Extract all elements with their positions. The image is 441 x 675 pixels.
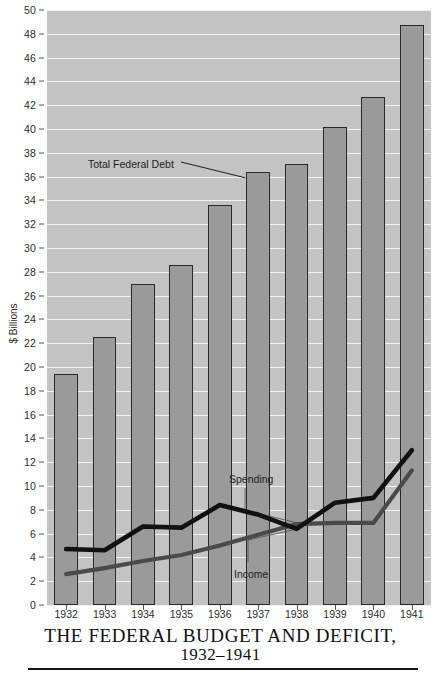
x-tick-mark [105, 605, 106, 610]
y-tick-label: 50 [24, 4, 36, 16]
spending-line [66, 450, 412, 550]
y-tick-mark [39, 10, 44, 11]
y-tick-mark [39, 295, 44, 296]
y-tick-mark [39, 176, 44, 177]
line-series-overlay [47, 10, 431, 605]
y-tick-label: 16 [24, 409, 36, 421]
y-tick-mark [39, 533, 44, 534]
plot-area [47, 10, 431, 605]
bottom-divider [28, 668, 418, 670]
chart-title-line2: 1932–1941 [0, 646, 441, 664]
y-tick-label: 44 [24, 75, 36, 87]
y-tick-label: 24 [24, 313, 36, 325]
y-tick-label: 2 [30, 575, 36, 587]
x-tick-mark [143, 605, 144, 610]
y-tick-mark [39, 81, 44, 82]
y-tick-mark [39, 367, 44, 368]
y-tick-label: 14 [24, 432, 36, 444]
annotation-spending: Spending [229, 473, 273, 485]
y-tick-label: 6 [30, 528, 36, 540]
y-tick-mark [39, 462, 44, 463]
y-tick-mark [39, 581, 44, 582]
y-tick-label: 48 [24, 28, 36, 40]
y-tick-mark [39, 343, 44, 344]
y-tick-label: 38 [24, 147, 36, 159]
y-tick-mark [39, 414, 44, 415]
y-tick-mark [39, 152, 44, 153]
y-tick-label: 18 [24, 385, 36, 397]
y-tick-mark [39, 224, 44, 225]
y-tick-label: 36 [24, 171, 36, 183]
chart-title-line1: THE FEDERAL BUDGET AND DEFICIT, [44, 625, 396, 646]
x-tick-mark [297, 605, 298, 610]
y-tick-mark [39, 200, 44, 201]
y-tick-mark [39, 486, 44, 487]
y-tick-mark [39, 605, 44, 606]
y-tick-mark [39, 57, 44, 58]
y-tick-mark [39, 557, 44, 558]
y-tick-label: 22 [24, 337, 36, 349]
y-tick-label: 40 [24, 123, 36, 135]
leader-line-total-federal-debt [181, 162, 245, 178]
x-tick-mark [373, 605, 374, 610]
y-tick-mark [39, 129, 44, 130]
y-tick-mark [39, 105, 44, 106]
x-tick-mark [181, 605, 182, 610]
chart-figure: 0246810121416182022242628303234363840424… [0, 0, 441, 675]
y-tick-mark [39, 248, 44, 249]
x-tick-mark [66, 605, 67, 610]
y-tick-label: 4 [30, 551, 36, 563]
annotation-total-federal-debt: Total Federal Debt [88, 158, 174, 170]
y-tick-label: 34 [24, 194, 36, 206]
x-tick-mark [412, 605, 413, 610]
x-tick-mark [220, 605, 221, 610]
y-tick-label: 10 [24, 480, 36, 492]
y-tick-label: 26 [24, 290, 36, 302]
y-tick-mark [39, 390, 44, 391]
y-tick-label: 20 [24, 361, 36, 373]
y-tick-label: 46 [24, 52, 36, 64]
y-tick-label: 28 [24, 266, 36, 278]
y-tick-mark [39, 319, 44, 320]
y-tick-label: 0 [30, 599, 36, 611]
x-tick-mark [335, 605, 336, 610]
y-tick-mark [39, 509, 44, 510]
y-tick-mark [39, 33, 44, 34]
y-tick-label: 8 [30, 504, 36, 516]
chart-title: THE FEDERAL BUDGET AND DEFICIT, 1932–194… [0, 626, 441, 664]
y-tick-mark [39, 438, 44, 439]
y-tick-label: 42 [24, 99, 36, 111]
y-axis-title: $ Billions [8, 289, 19, 359]
y-tick-label: 30 [24, 242, 36, 254]
x-tick-mark [258, 605, 259, 610]
y-tick-label: 32 [24, 218, 36, 230]
income-line [66, 471, 412, 575]
y-tick-mark [39, 271, 44, 272]
annotation-income: Income [234, 568, 268, 580]
y-tick-label: 12 [24, 456, 36, 468]
